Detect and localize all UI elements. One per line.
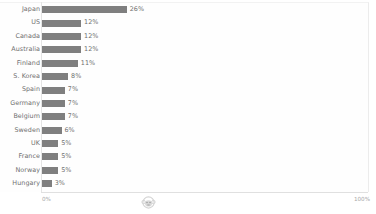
bar [42, 60, 78, 67]
bar [42, 46, 81, 53]
bar-category-label: Spain [0, 83, 40, 96]
bar-fill [42, 87, 65, 94]
bar-category-label: Canada [0, 30, 40, 43]
bar-category-label: Norway [0, 164, 40, 177]
bar-value-label: 5% [61, 164, 71, 177]
bar-category-label: Australia [0, 43, 40, 56]
value-axis-line [41, 192, 368, 193]
bar [42, 140, 58, 147]
bar-row: Spain7% [0, 83, 376, 96]
bar-value-label: 3% [55, 177, 65, 190]
bar-row: Belgium7% [0, 110, 376, 123]
horizontal-bar-chart: Japan26%US12%Canada12%Australia12%Finlan… [0, 0, 376, 214]
bar-row: UK5% [0, 137, 376, 150]
bar [42, 100, 65, 107]
bar-row: Finland11% [0, 57, 376, 70]
bar-value-label: 12% [84, 43, 98, 56]
bar-row: Norway5% [0, 164, 376, 177]
bar-fill [42, 140, 58, 147]
bar-category-label: Japan [0, 3, 40, 16]
bar-fill [42, 73, 68, 80]
bar [42, 113, 65, 120]
bar-category-label: Belgium [0, 110, 40, 123]
bar-row: France5% [0, 150, 376, 163]
bar-category-label: Sweden [0, 124, 40, 137]
bar-row: Australia12% [0, 43, 376, 56]
bar-row: US12% [0, 16, 376, 29]
bar-row: Germany7% [0, 97, 376, 110]
bar-value-label: 26% [130, 3, 144, 16]
bar [42, 20, 81, 27]
bar-category-label: Hungary [0, 177, 40, 190]
monkey-face-logo-icon [139, 193, 158, 212]
bar-value-label: 12% [84, 16, 98, 29]
bar-category-label: US [0, 16, 40, 29]
bar-fill [42, 33, 81, 40]
bar-row: Canada12% [0, 30, 376, 43]
bar-value-label: 5% [61, 150, 71, 163]
bar-value-label: 5% [61, 137, 71, 150]
bar-value-label: 7% [68, 110, 78, 123]
bar-value-label: 8% [71, 70, 81, 83]
bar-value-label: 11% [81, 57, 95, 70]
bar [42, 167, 58, 174]
bar-category-label: S. Korea [0, 70, 40, 83]
bar-fill [42, 20, 81, 27]
bar-fill [42, 180, 52, 187]
bar-value-label: 7% [68, 83, 78, 96]
bar-row: Hungary3% [0, 177, 376, 190]
axis-tick-min: 0% [42, 196, 51, 202]
bar-fill [42, 113, 65, 120]
bar [42, 33, 81, 40]
bar-fill [42, 127, 62, 134]
bar-row: S. Korea8% [0, 70, 376, 83]
bar [42, 73, 68, 80]
bar-fill [42, 153, 58, 160]
bar [42, 127, 62, 134]
bar-category-label: UK [0, 137, 40, 150]
axis-tick-max: 100% [354, 196, 370, 202]
bar-row: Sweden6% [0, 124, 376, 137]
bar-fill [42, 46, 81, 53]
bar-value-label: 6% [65, 124, 75, 137]
bar-fill [42, 60, 78, 67]
bars-area: Japan26%US12%Canada12%Australia12%Finlan… [0, 3, 376, 192]
bar-fill [42, 167, 58, 174]
bar-value-label: 12% [84, 30, 98, 43]
bar-category-label: France [0, 150, 40, 163]
bar [42, 6, 127, 13]
bar-category-label: Finland [0, 57, 40, 70]
bar-fill [42, 100, 65, 107]
bar-row: Japan26% [0, 3, 376, 16]
bar-fill [42, 6, 127, 13]
bar [42, 87, 65, 94]
bar-category-label: Germany [0, 97, 40, 110]
bar-value-label: 7% [68, 97, 78, 110]
bar [42, 180, 52, 187]
bar [42, 153, 58, 160]
